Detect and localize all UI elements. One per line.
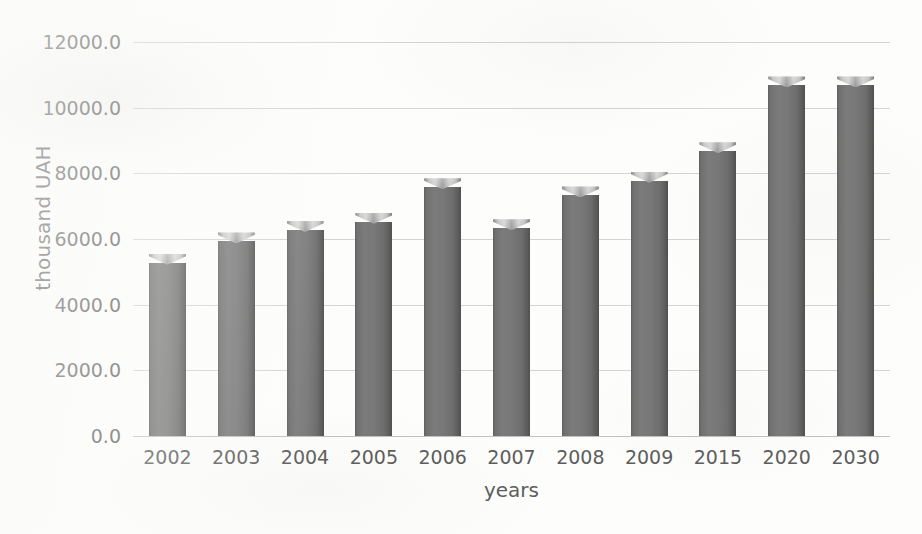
bar-body xyxy=(287,230,324,436)
x-tick-label: 2003 xyxy=(203,446,269,468)
bar-body xyxy=(355,222,392,436)
x-tick-label: 2004 xyxy=(272,446,338,468)
x-tick-label: 2006 xyxy=(410,446,476,468)
y-tick-label: 4000.0 xyxy=(55,294,121,316)
x-tick-label: 2005 xyxy=(341,446,407,468)
bar-body xyxy=(493,228,530,436)
x-tick-label: 2020 xyxy=(754,446,820,468)
bar xyxy=(287,221,324,436)
x-tick-label: 2015 xyxy=(685,446,751,468)
bar xyxy=(149,254,186,436)
x-tick-label: 2008 xyxy=(547,446,613,468)
bar-body xyxy=(699,151,736,436)
bar xyxy=(562,186,599,436)
plot-area: 0.02000.04000.06000.08000.010000.012000.… xyxy=(133,42,890,436)
y-tick-label: 12000.0 xyxy=(42,31,121,53)
y-tick-label: 8000.0 xyxy=(55,162,121,184)
y-tick-label: 2000.0 xyxy=(55,359,121,381)
x-axis-title: years xyxy=(133,478,890,502)
y-tick-label: 6000.0 xyxy=(55,228,121,250)
x-tick-label: 2007 xyxy=(479,446,545,468)
bar-body xyxy=(218,241,255,436)
bar xyxy=(218,232,255,436)
bar-series xyxy=(133,42,890,436)
axis-baseline xyxy=(133,436,890,437)
bar xyxy=(424,178,461,436)
bar xyxy=(837,76,874,436)
y-tick-label: 10000.0 xyxy=(42,97,121,119)
x-tick-label: 2009 xyxy=(616,446,682,468)
x-tick-label: 2030 xyxy=(823,446,889,468)
bar xyxy=(768,76,805,436)
y-tick-label: 0.0 xyxy=(91,425,121,447)
bar-body xyxy=(149,263,186,436)
bar-body xyxy=(424,187,461,436)
bar xyxy=(355,213,392,436)
bar-body xyxy=(562,195,599,436)
bar-body xyxy=(768,85,805,436)
chart-screenshot: thousand UAH 0.02000.04000.06000.08000.0… xyxy=(0,0,922,534)
bar-body xyxy=(837,85,874,436)
bar xyxy=(493,219,530,436)
bar-body xyxy=(631,181,668,436)
bar xyxy=(631,172,668,436)
x-tick-label: 2002 xyxy=(134,446,200,468)
bar xyxy=(699,142,736,436)
